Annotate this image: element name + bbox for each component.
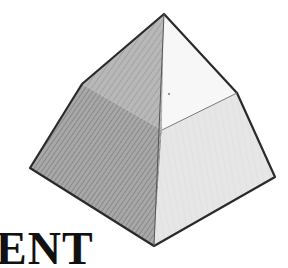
dot-mark xyxy=(168,93,170,95)
caption-text-fragment: ENT xyxy=(0,226,94,268)
